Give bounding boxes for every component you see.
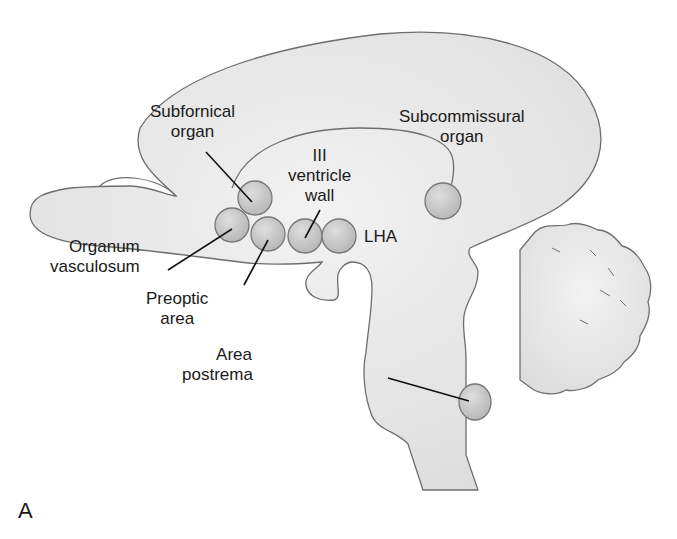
- cerebellum: [520, 223, 651, 393]
- circumventricular-organs-diagram: Subfornical organ Subcommissural organ I…: [0, 0, 677, 539]
- subfornical-organ: [238, 181, 272, 215]
- label-preoptic-area: Preoptic area: [146, 289, 208, 329]
- label-subcommissural-organ: Subcommissural organ: [399, 107, 525, 147]
- area-postrema-organ: [459, 384, 491, 420]
- preoptic-area-organ: [251, 217, 285, 251]
- label-subfornical-organ: Subfornical organ: [150, 102, 235, 142]
- label-third-ventricle-wall: III ventricle wall: [288, 146, 351, 206]
- lha-organ: [322, 219, 356, 253]
- label-lha: LHA: [364, 227, 397, 247]
- third-ventricle-wall-organ: [288, 219, 322, 253]
- panel-letter: A: [18, 498, 33, 524]
- subcommissural-organ: [425, 183, 461, 219]
- label-organum-vasculosum: Organum vasculosum: [50, 237, 140, 277]
- label-area-postrema: Area postrema: [182, 345, 252, 385]
